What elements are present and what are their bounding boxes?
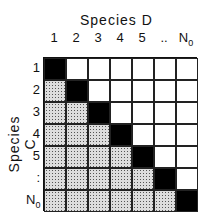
diagonal-cell: [88, 102, 110, 124]
stippled-cell: [132, 190, 154, 212]
interaction-matrix: [43, 57, 197, 211]
empty-cell: [88, 58, 110, 80]
species-c-title: Species C: [6, 114, 38, 174]
empty-cell: [154, 124, 176, 146]
stippled-cell: [132, 168, 154, 190]
row-label: 1: [26, 60, 40, 75]
empty-cell: [66, 58, 88, 80]
diagonal-cell: [176, 190, 198, 212]
stippled-cell: [44, 102, 66, 124]
stippled-cell: [110, 168, 132, 190]
diagonal-cell: [154, 168, 176, 190]
empty-cell: [176, 58, 198, 80]
empty-cell: [132, 58, 154, 80]
stippled-cell: [88, 146, 110, 168]
row-label: 5: [26, 148, 40, 163]
empty-cell: [176, 102, 198, 124]
stippled-cell: [110, 146, 132, 168]
empty-cell: [176, 80, 198, 102]
stippled-cell: [44, 124, 66, 146]
empty-cell: [176, 124, 198, 146]
column-label: 1: [43, 30, 65, 45]
stippled-cell: [66, 102, 88, 124]
stippled-cell: [44, 146, 66, 168]
stippled-cell: [44, 168, 66, 190]
column-label: N0: [175, 30, 197, 48]
stippled-cell: [66, 124, 88, 146]
stippled-cell: [66, 190, 88, 212]
stippled-cell: [66, 146, 88, 168]
empty-cell: [132, 80, 154, 102]
empty-cell: [154, 80, 176, 102]
stippled-cell: [154, 190, 176, 212]
empty-cell: [110, 102, 132, 124]
empty-cell: [154, 146, 176, 168]
stippled-cell: [44, 80, 66, 102]
stippled-cell: [44, 190, 66, 212]
empty-cell: [176, 146, 198, 168]
diagonal-cell: [110, 124, 132, 146]
species-d-title: Species D: [80, 12, 153, 28]
stippled-cell: [88, 168, 110, 190]
column-label: 4: [109, 30, 131, 45]
diagonal-cell: [132, 146, 154, 168]
row-label: 4: [26, 126, 40, 141]
empty-cell: [110, 58, 132, 80]
empty-cell: [88, 80, 110, 102]
stippled-cell: [110, 190, 132, 212]
row-label: 3: [26, 104, 40, 119]
diagonal-cell: [66, 80, 88, 102]
row-label: 2: [26, 82, 40, 97]
row-label: :: [26, 170, 40, 185]
empty-cell: [154, 58, 176, 80]
empty-cell: [110, 80, 132, 102]
column-label: 2: [65, 30, 87, 45]
row-label: N0: [26, 192, 40, 210]
empty-cell: [176, 168, 198, 190]
column-label: ..: [153, 30, 175, 45]
stippled-cell: [66, 168, 88, 190]
empty-cell: [132, 124, 154, 146]
stippled-cell: [88, 124, 110, 146]
stippled-cell: [88, 190, 110, 212]
column-label: 3: [87, 30, 109, 45]
empty-cell: [132, 102, 154, 124]
empty-cell: [154, 102, 176, 124]
diagonal-cell: [44, 58, 66, 80]
column-label: 5: [131, 30, 153, 45]
